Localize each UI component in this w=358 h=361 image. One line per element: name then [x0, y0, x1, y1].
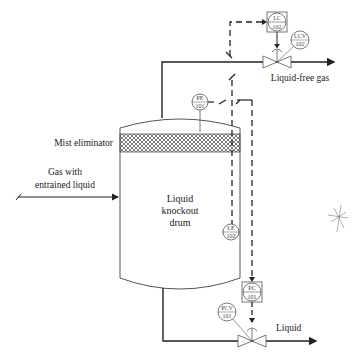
- liquid-outlet-line: [163, 288, 316, 341]
- stray-mark: [328, 205, 348, 232]
- inlet-line: [16, 194, 118, 200]
- inlet-label-line1: Gas with: [48, 167, 82, 177]
- instrument-pc-101: PC 101: [242, 282, 262, 323]
- drum-label-line1: Liquid: [167, 193, 194, 204]
- pe-number: 101: [196, 103, 205, 109]
- pe-tag: PE: [196, 95, 203, 101]
- signal-le-to-lc: [226, 19, 267, 232]
- liquid-outlet-label: Liquid: [276, 323, 302, 333]
- mist-eliminator-label: Mist eliminator: [54, 138, 114, 148]
- instrument-lcv-102: LCV 102: [291, 31, 309, 49]
- pc-number: 101: [248, 294, 257, 300]
- gas-outlet-label: Liquid-free gas: [271, 73, 330, 83]
- gas-outlet-line: [162, 62, 334, 118]
- drum-label-line3: drum: [169, 217, 190, 228]
- lc-number: 102: [273, 24, 282, 30]
- instrument-pcv-101: PCV 101: [218, 303, 236, 321]
- pcv-tag: PCV: [221, 305, 233, 311]
- inlet-label-line2: entrained liquid: [35, 180, 95, 190]
- pc-tag: PC: [248, 285, 255, 291]
- lcv-tag: LCV: [294, 33, 307, 39]
- le-tag: LE: [227, 225, 235, 231]
- instrument-lc-102: LC 102: [267, 12, 287, 32]
- drum-label-line2: knockout: [161, 205, 198, 216]
- lc-tag: LC: [273, 15, 281, 21]
- mist-eliminator-mesh: [120, 134, 240, 152]
- pcv-number: 101: [223, 313, 232, 319]
- pcv-101-valve: [232, 318, 266, 347]
- lcv-102-valve: [263, 32, 294, 68]
- knockout-drum: [120, 119, 240, 289]
- lcv-number: 102: [296, 41, 305, 47]
- le-number: 102: [227, 233, 236, 239]
- knockout-drum-diagram: LCV 102 LC 102 PE 101: [0, 0, 358, 361]
